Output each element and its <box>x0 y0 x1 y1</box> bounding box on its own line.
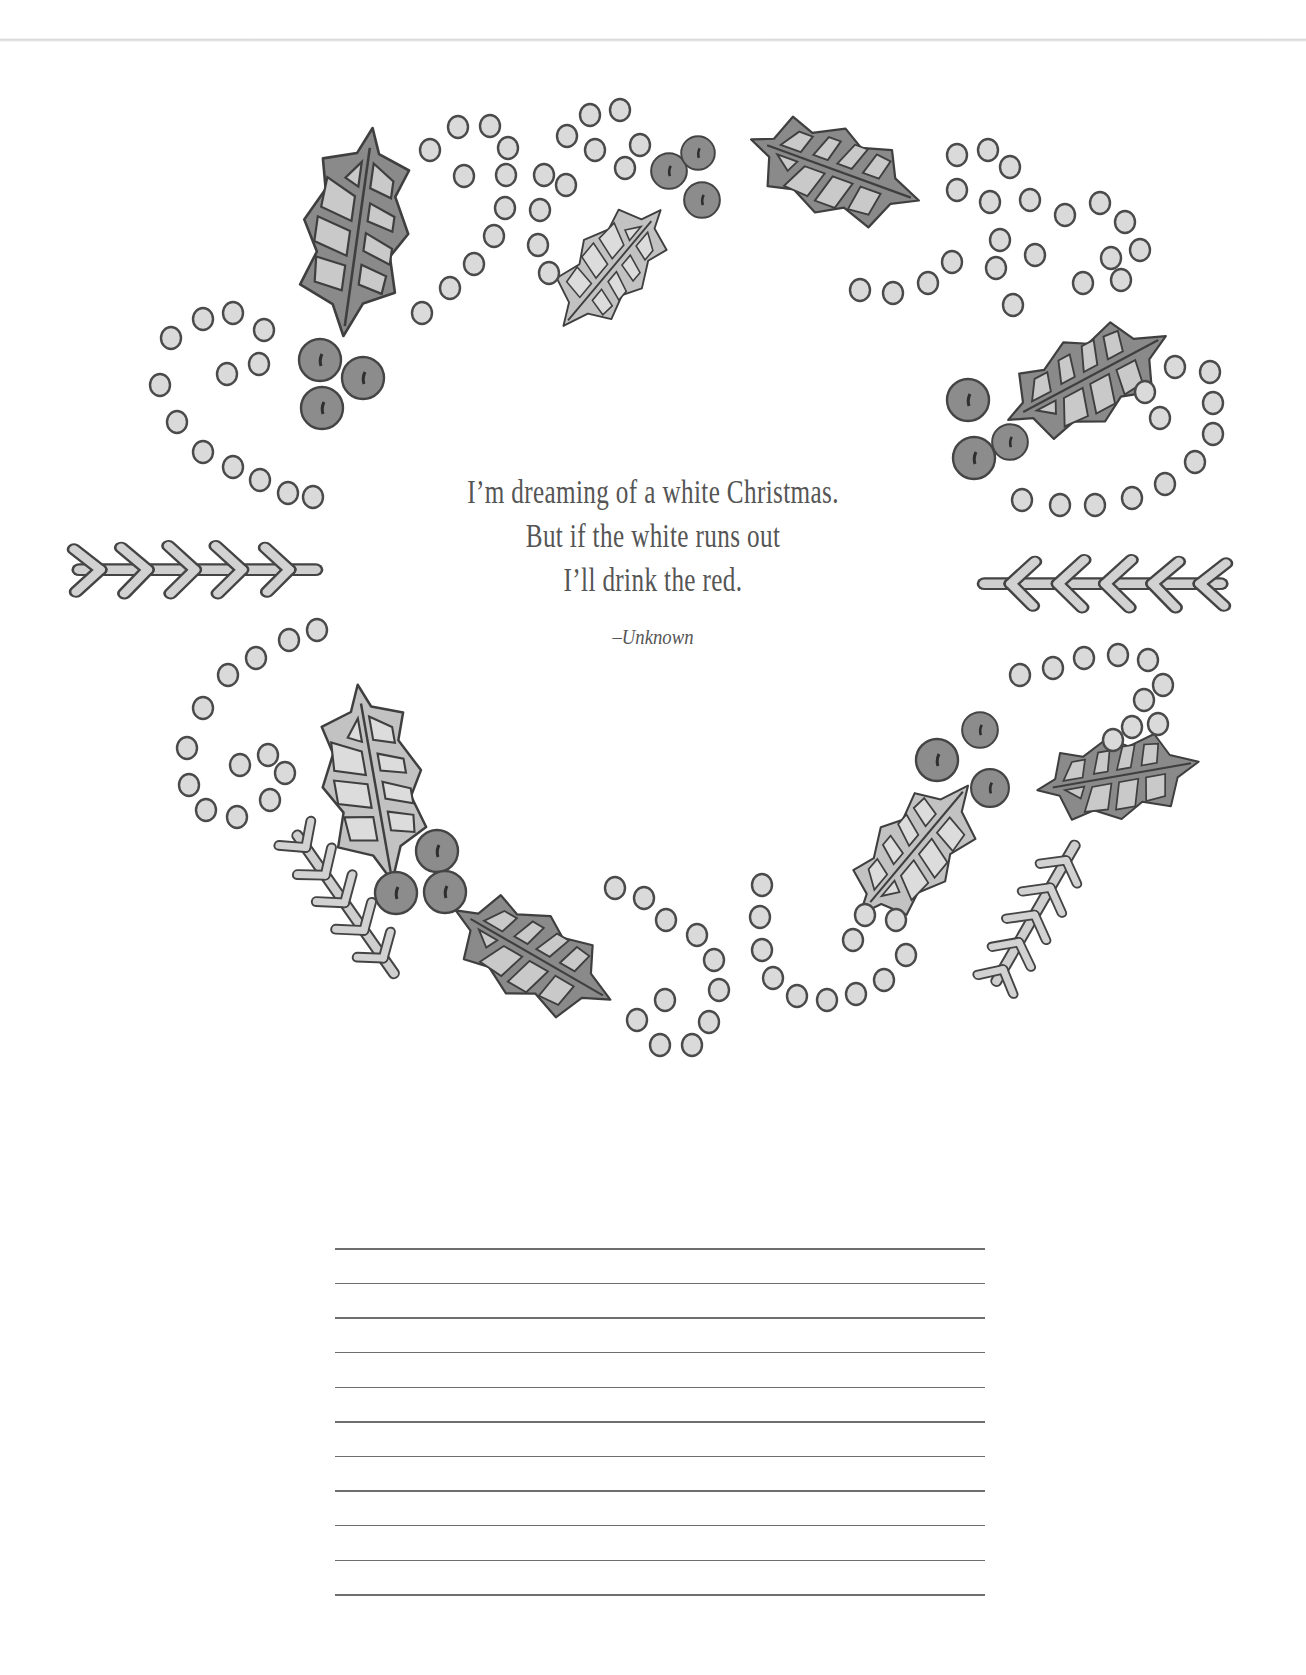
quote-block: I’m dreaming of a white Christmas. But i… <box>353 470 953 650</box>
holly-berries-top-center <box>651 136 720 218</box>
writing-line[interactable] <box>335 1215 985 1250</box>
fern-sprig-bottom-right <box>975 834 1094 996</box>
quote-line-3: I’ll drink the red. <box>431 558 875 602</box>
holly-leaf-top-left <box>289 120 422 343</box>
holly-leaf-top-right <box>735 100 933 245</box>
writing-line[interactable] <box>335 1250 985 1285</box>
writing-area[interactable] <box>335 1215 985 1596</box>
writing-line[interactable] <box>335 1284 985 1319</box>
fern-sprig-right <box>985 560 1227 608</box>
writing-line[interactable] <box>335 1423 985 1458</box>
quote-line-1: I’m dreaming of a white Christmas. <box>431 470 875 514</box>
writing-line[interactable] <box>335 1353 985 1388</box>
writing-line[interactable] <box>335 1457 985 1492</box>
writing-line[interactable] <box>335 1388 985 1423</box>
writing-line[interactable] <box>335 1492 985 1527</box>
holly-berries-right <box>947 379 1028 479</box>
quote-attribution: –Unknown <box>398 624 908 650</box>
writing-line[interactable] <box>335 1561 985 1596</box>
writing-line[interactable] <box>335 1526 985 1561</box>
writing-line[interactable] <box>335 1319 985 1354</box>
quote-line-2: But if the white runs out <box>431 514 875 558</box>
fern-sprig-left <box>74 546 316 594</box>
holly-berries-top-left <box>299 339 384 429</box>
